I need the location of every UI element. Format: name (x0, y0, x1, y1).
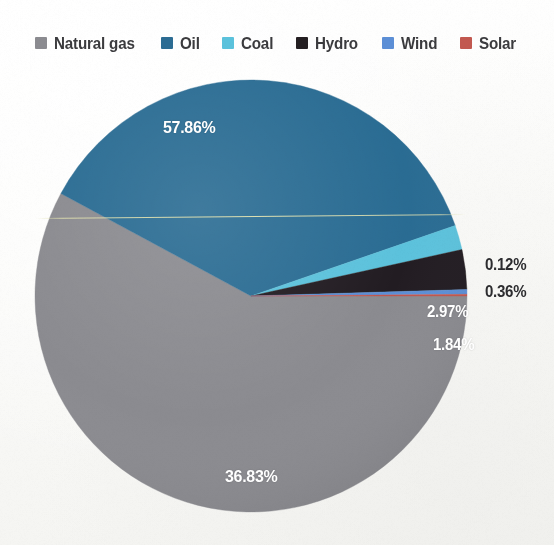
pie-label-hydro: 2.97% (427, 303, 468, 321)
pie-shading-overlay (35, 80, 467, 512)
pie-label-oil: 36.83% (225, 467, 278, 487)
legend: Natural gas Oil Coal Hydro Wind Solar (0, 30, 554, 56)
legend-label-oil: Oil (180, 34, 200, 53)
legend-label-wind: Wind (401, 34, 437, 53)
legend-label-solar: Solar (479, 34, 516, 53)
pie-chart (0, 0, 554, 545)
pie-label-wind: 0.36% (485, 283, 526, 301)
legend-label-hydro: Hydro (315, 34, 358, 53)
legend-swatch-coal (222, 37, 234, 49)
pie-label-coal: 1.84% (433, 336, 474, 354)
legend-label-coal: Coal (241, 34, 273, 53)
legend-item-solar[interactable]: Solar (460, 34, 519, 53)
legend-swatch-hydro (296, 37, 308, 49)
legend-item-hydro[interactable]: Hydro (296, 34, 362, 53)
legend-swatch-solar (460, 37, 472, 49)
legend-swatch-natural-gas (35, 37, 47, 49)
pie-chart-svg (0, 0, 554, 545)
pie-label-solar: 0.12% (485, 256, 526, 274)
legend-swatch-oil (161, 37, 173, 49)
legend-item-wind[interactable]: Wind (382, 34, 440, 53)
pie-label-natural-gas: 57.86% (163, 118, 216, 138)
legend-item-natural-gas[interactable]: Natural gas (35, 34, 142, 53)
legend-item-oil[interactable]: Oil (161, 34, 201, 53)
legend-swatch-wind (382, 37, 394, 49)
legend-item-coal[interactable]: Coal (222, 34, 276, 53)
legend-label-natural-gas: Natural gas (54, 34, 135, 53)
